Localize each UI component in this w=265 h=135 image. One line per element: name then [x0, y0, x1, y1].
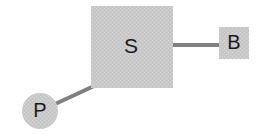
node-s-label: S: [124, 34, 138, 57]
node-b-label: B: [227, 31, 240, 53]
node-s[interactable]: S: [91, 6, 173, 88]
node-link-diagram: S B P: [0, 0, 265, 135]
edge-p-to-s: [53, 86, 94, 105]
node-p[interactable]: P: [22, 93, 58, 129]
node-p-label: P: [33, 99, 46, 121]
node-b[interactable]: B: [219, 27, 249, 59]
diagram-canvas: S B P: [0, 0, 265, 135]
